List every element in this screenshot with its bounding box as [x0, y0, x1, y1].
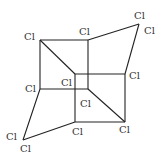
cl-label: Cl [6, 131, 17, 142]
cl-label: Cl [25, 83, 36, 94]
cl-label: Cl [61, 77, 72, 88]
atom-labels: Cl Cl Cl Cl Cl Cl Cl Cl Cl Cl Cl Cl [6, 10, 155, 154]
bond [125, 24, 139, 74]
cl-label: Cl [129, 70, 140, 81]
cl-label: Cl [72, 126, 83, 137]
cl-label: Cl [134, 10, 145, 21]
bond [40, 40, 75, 74]
cl-label: Cl [24, 31, 35, 42]
bonds [23, 24, 139, 140]
bond [23, 122, 75, 140]
bond [88, 89, 125, 122]
chlorinated-cage-structure: Cl Cl Cl Cl Cl Cl Cl Cl Cl Cl Cl Cl [0, 0, 162, 162]
cl-label: Cl [79, 26, 90, 37]
cl-label: Cl [119, 124, 130, 135]
bond [88, 24, 139, 40]
cl-label: Cl [20, 143, 31, 154]
bond [23, 89, 40, 140]
cl-label: Cl [144, 25, 155, 36]
cl-label: Cl [80, 98, 91, 109]
